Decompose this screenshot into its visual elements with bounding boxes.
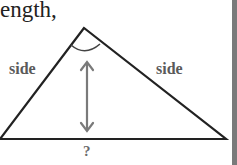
- left-side-label: side: [9, 60, 36, 78]
- height-double-arrow-icon: [81, 62, 93, 131]
- triangle-shape: [0, 28, 226, 139]
- apex-angle-arc-icon: [71, 44, 100, 51]
- base-unknown-label: ?: [83, 143, 91, 160]
- right-side-label: side: [156, 60, 183, 78]
- triangle-diagram: [0, 0, 237, 165]
- page-edge-bar: [232, 0, 237, 165]
